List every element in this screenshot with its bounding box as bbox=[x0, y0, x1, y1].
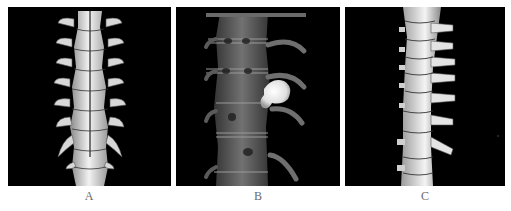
panel-label-a: A bbox=[79, 189, 99, 203]
panel-c-spine-oblique-view bbox=[345, 7, 505, 186]
figure: A B C bbox=[0, 0, 511, 211]
panel-b-spine-translucent-with-lesion bbox=[176, 7, 340, 186]
panel-label-c: C bbox=[415, 189, 435, 203]
spine-translucent-render bbox=[176, 7, 340, 186]
panel-a-spine-posterior-view bbox=[8, 7, 171, 186]
panel-label-b: B bbox=[248, 189, 268, 203]
spine-posterior-render bbox=[8, 7, 171, 186]
spine-oblique-render bbox=[345, 7, 505, 186]
